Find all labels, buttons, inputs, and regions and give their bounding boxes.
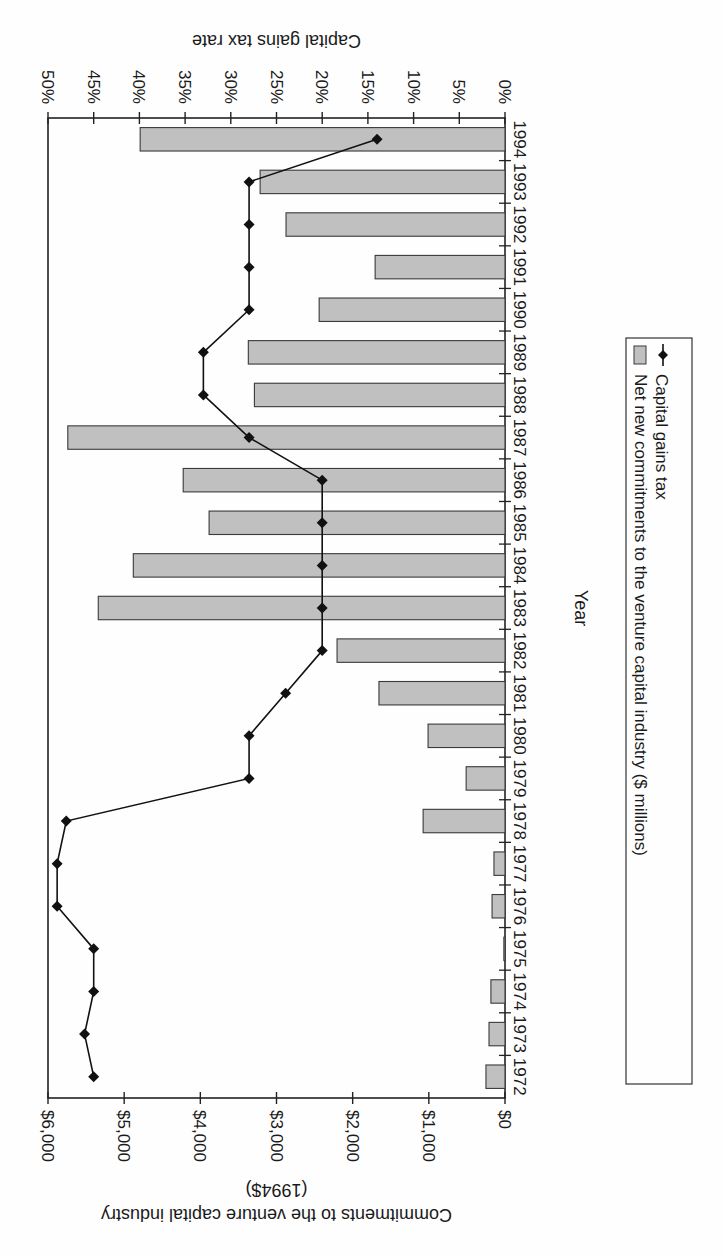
year-label: 1986 — [510, 461, 529, 499]
secondary-tick-label: 10% — [404, 70, 423, 104]
year-label: 1977 — [510, 845, 529, 883]
combo-bar-line-chart: $0$1,000$2,000$3,000$4,000$5,000$6,000(1… — [0, 0, 723, 1257]
year-label: 1972 — [510, 1058, 529, 1096]
year-label: 1980 — [510, 717, 529, 755]
primary-axis-title: Commitments to the venture capital indus… — [101, 1205, 452, 1225]
secondary-tick-label: 20% — [312, 70, 331, 104]
bar-1978 — [423, 809, 505, 832]
bar-1987 — [68, 426, 505, 449]
year-label: 1976 — [510, 887, 529, 925]
diamond-marker-icon — [244, 219, 255, 230]
bar-1990 — [319, 298, 505, 321]
secondary-tick-label: 35% — [175, 70, 194, 104]
primary-axis-title: (1994$) — [245, 1180, 307, 1200]
year-label: 1989 — [510, 333, 529, 371]
bar-1974 — [491, 980, 505, 1003]
legend-entry-tax: Capital gains tax — [652, 374, 671, 500]
year-label: 1991 — [510, 248, 529, 286]
bar-1986 — [183, 468, 505, 491]
secondary-tick-label: 30% — [221, 70, 240, 104]
secondary-tick-label: 25% — [267, 70, 286, 104]
diamond-marker-icon — [79, 1029, 90, 1040]
year-label: 1981 — [510, 674, 529, 712]
diamond-marker-icon — [244, 262, 255, 273]
primary-axis: $0$1,000$2,000$3,000$4,000$5,000$6,000(1… — [38, 1092, 514, 1225]
bar-series — [68, 128, 505, 1089]
year-label: 1988 — [510, 376, 529, 414]
diamond-marker-icon — [244, 176, 255, 187]
secondary-tick-label: 15% — [358, 70, 377, 104]
year-label: 1983 — [510, 589, 529, 627]
bar-1977 — [494, 852, 505, 875]
bar-1983 — [98, 596, 505, 619]
year-label: 1987 — [510, 419, 529, 457]
bar-1993 — [260, 170, 505, 193]
year-label: 1990 — [510, 291, 529, 329]
bar-1976 — [492, 895, 505, 918]
year-label: 1979 — [510, 760, 529, 798]
secondary-tick-label: 40% — [129, 70, 148, 104]
bar-1979 — [466, 767, 505, 790]
year-label: 1994 — [510, 120, 529, 158]
diamond-marker-icon — [61, 816, 72, 827]
year-label: 1984 — [510, 546, 529, 584]
secondary-tick-label: 0% — [495, 79, 514, 104]
bar-1980 — [428, 724, 505, 747]
bar-1994 — [140, 128, 505, 151]
diamond-marker-icon — [88, 1071, 99, 1082]
diamond-marker-icon — [88, 986, 99, 997]
bar-1982 — [337, 639, 505, 662]
primary-tick-label: $1,000 — [419, 1110, 438, 1162]
legend-bar-swatch-icon — [634, 346, 646, 364]
primary-tick-label: $4,000 — [190, 1110, 209, 1162]
secondary-axis-title: Capital gains tax rate — [192, 31, 361, 51]
bar-1975 — [504, 937, 505, 960]
legend-entry-commitments: Net new commitments to the venture capit… — [631, 374, 650, 856]
secondary-axis: 0%5%10%15%20%25%30%35%40%45%50%Capital g… — [38, 31, 514, 124]
primary-tick-label: $2,000 — [343, 1110, 362, 1162]
diamond-marker-icon — [52, 858, 63, 869]
bar-1981 — [379, 682, 505, 705]
chart-stage: $0$1,000$2,000$3,000$4,000$5,000$6,000(1… — [0, 0, 723, 1257]
bar-1973 — [489, 1022, 505, 1045]
year-axis: 1972197319741975197619771978197919801981… — [499, 120, 591, 1095]
secondary-tick-label: 45% — [84, 70, 103, 104]
diamond-marker-icon — [244, 773, 255, 784]
year-label: 1975 — [510, 930, 529, 968]
year-label: 1992 — [510, 206, 529, 244]
secondary-tick-label: 5% — [449, 79, 468, 104]
bar-1991 — [375, 255, 505, 278]
year-label: 1993 — [510, 163, 529, 201]
bar-1985 — [209, 511, 505, 534]
year-label: 1974 — [510, 973, 529, 1011]
bar-1989 — [248, 341, 505, 364]
year-label: 1982 — [510, 632, 529, 670]
bar-1988 — [254, 383, 505, 406]
year-label: 1978 — [510, 802, 529, 840]
year-label: 1973 — [510, 1015, 529, 1053]
primary-tick-label: $0 — [495, 1110, 514, 1129]
bar-1992 — [286, 213, 505, 236]
primary-tick-label: $5,000 — [114, 1110, 133, 1162]
primary-tick-label: $3,000 — [267, 1110, 286, 1162]
primary-tick-label: $6,000 — [38, 1110, 57, 1162]
category-axis-title: Year — [571, 590, 591, 626]
secondary-tick-label: 50% — [38, 70, 57, 104]
year-label: 1985 — [510, 504, 529, 542]
legend: Net new commitments to the venture capit… — [626, 338, 692, 1084]
bar-1972 — [486, 1065, 505, 1088]
